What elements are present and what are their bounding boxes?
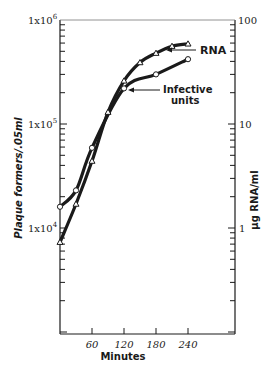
y-right-axis-label: µg RNA/ml <box>249 170 260 229</box>
circle-marker <box>73 188 78 193</box>
circle-marker <box>185 57 190 62</box>
circle-marker <box>57 204 62 209</box>
circle-marker <box>121 86 126 91</box>
left-axis-ticks <box>60 25 67 332</box>
infective-annotation-line1: Infective <box>163 84 213 95</box>
infective-annotation-line2: units <box>171 95 199 106</box>
chart: 60 120 180 240 Minutes 1x106 1x105 1x104… <box>0 0 275 371</box>
y-right-tick-10: 10 <box>239 119 252 130</box>
x-axis-label: Minutes <box>100 351 145 362</box>
x-tick-60: 60 <box>86 339 99 350</box>
y-left-tick-1e5: 1x105 <box>28 117 57 130</box>
y-left-axis-label: Plaque formers/.05ml <box>13 117 24 239</box>
x-tick-120: 120 <box>114 339 134 350</box>
circle-marker <box>153 72 158 77</box>
right-axis-ticks <box>228 25 235 332</box>
y-right-tick-1: 1 <box>239 223 245 234</box>
rna-curve <box>60 44 188 242</box>
infective-arrowhead-icon <box>128 88 134 93</box>
y-left-tick-1e6: 1x106 <box>28 13 58 26</box>
x-axis-ticks <box>92 328 188 334</box>
y-left-tick-1e4: 1x104 <box>28 221 58 234</box>
rna-markers <box>57 41 191 245</box>
x-tick-240: 240 <box>177 339 198 350</box>
y-right-tick-100: 100 <box>238 15 257 26</box>
rna-annotation: RNA <box>200 44 227 57</box>
x-tick-180: 180 <box>146 339 166 350</box>
circle-marker <box>89 145 94 150</box>
